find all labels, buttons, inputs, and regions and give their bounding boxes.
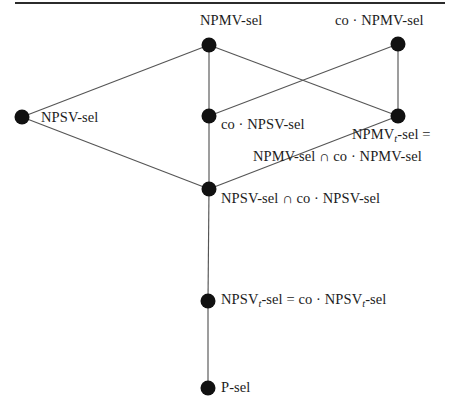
hasse-diagram: NPMV-sel co · NPMV-sel NPSV-sel co · NPS… [0, 0, 460, 408]
label-npmv-sel: NPMV-sel [200, 12, 262, 29]
label-meet-npsv: NPSV-sel ∩ co · NPSV-sel [221, 190, 380, 207]
label-npmv-t-suffix: -sel = [397, 126, 430, 142]
label-npsv-t-mid: -sel = co · NPSV [261, 291, 362, 307]
label-npsv-t-sel: NPSVt-sel = co · NPSVt-sel [221, 291, 386, 310]
label-npsv-sel: NPSV-sel [41, 109, 98, 126]
label-npsv-t-prefix: NPSV [221, 291, 258, 307]
label-npsv-t-suffix: -sel [365, 291, 386, 307]
label-npmv-t-prefix: NPMV [352, 126, 394, 142]
label-co-npmv-sel: co · NPMV-sel [335, 12, 424, 29]
label-co-npsv-sel: co · NPSV-sel [221, 116, 305, 133]
label-p-sel: P-sel [221, 379, 251, 396]
labels-layer: NPMV-sel co · NPMV-sel NPSV-sel co · NPS… [0, 0, 460, 408]
label-npmv-t-definition: NPMV-sel ∩ co · NPMV-sel [253, 148, 422, 165]
label-npmv-t-sel: NPMVt-sel = [352, 126, 431, 145]
